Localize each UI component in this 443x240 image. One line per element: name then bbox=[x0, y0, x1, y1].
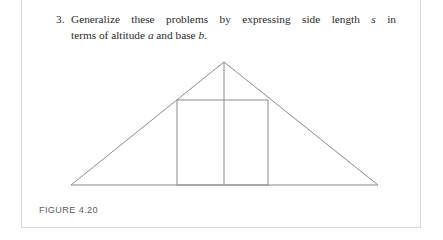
problem-line2-suffix: . bbox=[204, 29, 207, 41]
problem-line-1: Generalize these problems by expressing … bbox=[71, 12, 396, 28]
problem-number: 3. bbox=[56, 12, 71, 28]
inscribed-square-outline bbox=[177, 100, 268, 185]
triangle-square-diagram bbox=[21, 50, 421, 200]
problem-line2-prefix: terms of altitude bbox=[71, 29, 148, 41]
problem-line2-middle: and base bbox=[154, 29, 199, 41]
problem-line1-suffix: in bbox=[376, 13, 396, 25]
problem-line-2: terms of altitude a and base b. bbox=[71, 28, 396, 44]
problem-row: 3. Generalize these problems by expressi… bbox=[56, 12, 396, 43]
figure-page: 3. Generalize these problems by expressi… bbox=[0, 0, 443, 240]
problem-statement: 3. Generalize these problems by expressi… bbox=[56, 12, 396, 43]
figure-caption: FIGURE 4.20 bbox=[39, 205, 98, 215]
problem-body: Generalize these problems by expressing … bbox=[71, 12, 396, 43]
problem-line1-prefix: Generalize these problems by expressing … bbox=[71, 13, 371, 25]
figure-diagram bbox=[21, 50, 421, 200]
